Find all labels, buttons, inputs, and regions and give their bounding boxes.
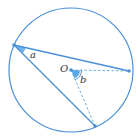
center-point-o (69, 68, 73, 72)
point-c (93, 124, 97, 128)
label-center-o: O (60, 63, 68, 74)
label-angle-b: b (80, 74, 86, 85)
diagram-canvas: a O b (0, 0, 138, 140)
point-a (12, 43, 16, 47)
label-angle-a: a (30, 49, 36, 60)
chord-ac (14, 45, 95, 126)
circle-diagram: a O b (0, 0, 138, 140)
point-b (127, 69, 131, 73)
